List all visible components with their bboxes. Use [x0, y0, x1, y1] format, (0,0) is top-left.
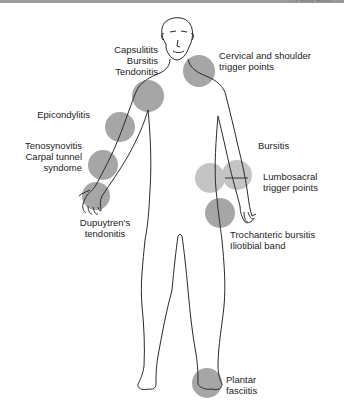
label-dupuytren: Dupuytren's tendonitis: [72, 217, 138, 239]
label-trochanteric: Trochanteric bursitis Iliotibial band: [230, 229, 315, 251]
label-capsulitis: Capsulitits Bursitis Tendonitis: [90, 44, 158, 77]
spot-shoulder-left: [132, 80, 164, 112]
spot-wrist: [88, 150, 118, 180]
spot-plantar: [192, 368, 222, 398]
spot-elbow: [105, 112, 135, 142]
spot-bursitis: [222, 160, 252, 190]
label-bursitis: Bursitis: [258, 140, 289, 151]
spot-lumbosacral: [195, 163, 225, 193]
label-epicondylitis: Epicondylitis: [10, 109, 90, 120]
label-lumbosacral: Lumbosacral trigger points: [263, 171, 318, 193]
label-cervical: Cervical and shoulder trigger points: [219, 50, 311, 72]
label-plantar: Plantar fasciitis: [226, 374, 257, 396]
running-header: ...PAIN AND ...: [289, 0, 342, 3]
label-tenosynovitis: Tenosynovitis Carpal tunnel syndome: [6, 140, 82, 173]
